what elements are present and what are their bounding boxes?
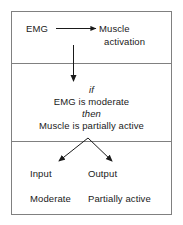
panel-divider-bottom: [11, 141, 172, 142]
muscle-activation-line2: activation: [99, 36, 161, 49]
rule-inference-diagram: EMG Muscleactivation if EMG is moderate …: [0, 0, 183, 225]
panel-divider-top: [11, 63, 172, 64]
muscle-activation-label: Muscleactivation: [99, 23, 161, 48]
premise-label: EMG is moderate: [11, 96, 172, 108]
input-header-label: Input: [30, 168, 52, 180]
input-value-label: Moderate: [30, 193, 71, 205]
if-keyword-label: if: [11, 84, 172, 96]
muscle-activation-line1: Muscle: [99, 23, 130, 34]
conclusion-label: Muscle is partially active: [11, 120, 172, 132]
emg-label: EMG: [26, 23, 48, 35]
output-value-label: Partially active: [88, 193, 151, 205]
output-header-label: Output: [88, 168, 117, 180]
then-keyword-label: then: [11, 108, 172, 120]
